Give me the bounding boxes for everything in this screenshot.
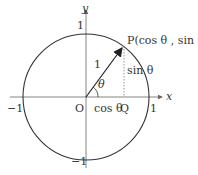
- point-q-label: Q: [120, 102, 129, 115]
- y-axis-label: y: [81, 2, 89, 15]
- y-tick-pos: 1: [77, 19, 84, 32]
- radius-label: 1: [94, 58, 101, 71]
- x-axis-label: x: [166, 90, 173, 103]
- origin-label: O: [75, 102, 84, 115]
- point-p-label: P(cos θ , sin θ ): [127, 34, 198, 47]
- unit-circle-diagram: y x 1 −1 −1 1 O cos θ Q P(cos θ , sin θ …: [0, 0, 198, 175]
- x-tick-pos: 1: [150, 102, 157, 115]
- x-tick-neg: −1: [7, 102, 23, 115]
- angle-label: θ: [98, 78, 105, 91]
- sin-label: sin θ: [127, 64, 154, 77]
- y-tick-neg: −1: [71, 155, 87, 168]
- cos-label: cos θ: [94, 102, 123, 115]
